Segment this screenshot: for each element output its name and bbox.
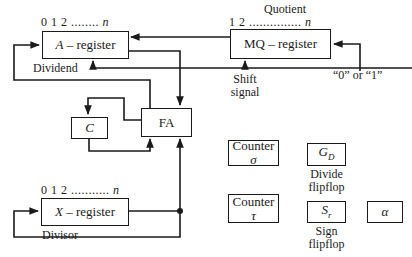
counter-sigma-box: Counter σ <box>228 140 279 166</box>
mq-input-label: “0” or “1” <box>333 69 382 82</box>
c-to-fa-wire <box>89 138 150 151</box>
counter-tau-box: Counter τ <box>228 194 279 223</box>
junction-dot <box>177 208 183 214</box>
carry-box: C <box>71 117 108 139</box>
shift-to-a-wire <box>93 61 412 68</box>
x-register: X – register <box>41 198 129 226</box>
alpha-box: α <box>367 201 403 223</box>
divide-flipflop-box: GD <box>307 143 346 166</box>
sign-flipflop-caption: Sign flipflop <box>300 225 353 251</box>
dividend-label: Dividend <box>33 62 78 75</box>
divisor-label: Divisor <box>42 229 78 242</box>
x-register-bit-labels: 0 1 2 ........... n <box>41 183 120 198</box>
shift-signal-label: Shift signal <box>228 73 262 99</box>
full-adder-box: FA <box>141 108 192 137</box>
a-to-fa-wire <box>128 51 180 105</box>
mq-register-bit-labels: 1 2 ............... n <box>229 15 312 30</box>
sign-flipflop-box: Sr <box>307 201 346 223</box>
a-register: A – register <box>42 31 129 59</box>
mq-input-wire <box>334 44 360 71</box>
mq-register: MQ – register <box>230 29 331 59</box>
divide-flipflop-caption: Divide flipflop <box>300 168 353 194</box>
a-register-bit-labels: 0 1 2 ........ n <box>41 15 109 30</box>
